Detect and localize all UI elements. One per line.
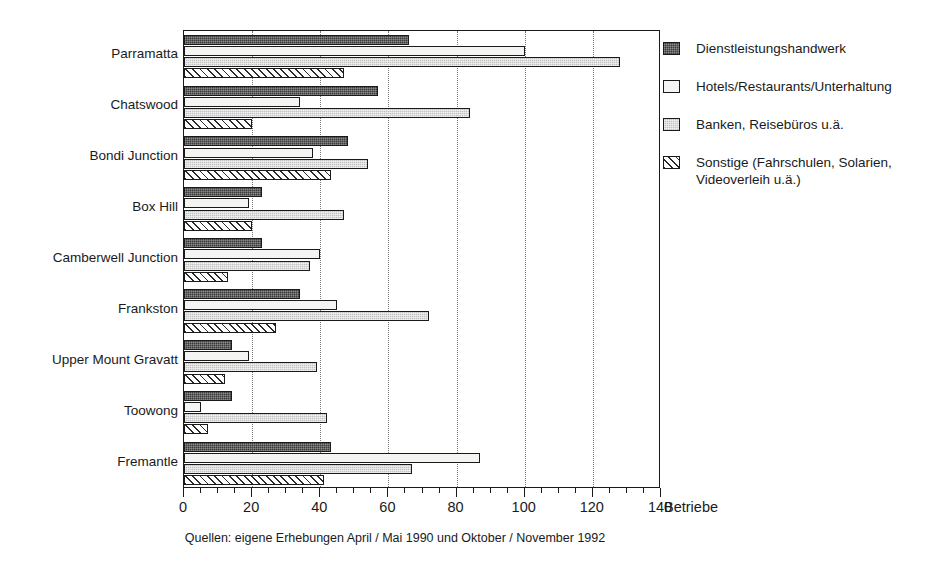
x-axis-minor-tick: [234, 488, 235, 493]
y-axis-label: Camberwell Junction: [53, 250, 178, 265]
chart-figure: ParramattaChatswoodBondi JunctionBox Hil…: [0, 0, 940, 573]
x-axis-minor-tick: [285, 488, 286, 493]
x-axis-minor-tick: [609, 488, 610, 493]
legend-item: Hotels/Restaurants/Unterhaltung: [663, 78, 892, 95]
x-axis-minor-tick: [200, 488, 201, 493]
legend-item: Banken, Reisebüros u.ä.: [663, 116, 844, 133]
legend-item: Sonstige (Fahrschulen, Solarien, Videove…: [663, 154, 892, 188]
x-axis-tick-label: 60: [379, 499, 395, 515]
x-axis-major-tick: [456, 488, 457, 497]
x-axis-minor-tick: [336, 488, 337, 493]
x-axis-unit-label: Betriebe: [664, 499, 718, 515]
x-axis-tick-label: 120: [580, 499, 604, 515]
x-axis-tick-label: 80: [447, 499, 463, 515]
x-axis-major-tick: [319, 488, 320, 497]
legend-label: Dienstleistungshandwerk: [696, 40, 846, 57]
legend-swatch-icon: [663, 118, 680, 131]
y-axis-label: Upper Mount Gravatt: [52, 352, 178, 367]
y-axis-label: Fremantle: [117, 454, 178, 469]
x-axis-major-tick: [592, 488, 593, 497]
x-axis-tick-label: 20: [243, 499, 259, 515]
legend-item: Dienstleistungshandwerk: [663, 40, 846, 57]
x-axis-major-tick: [524, 488, 525, 497]
x-axis-minor-tick: [490, 488, 491, 493]
x-axis-minor-tick: [575, 488, 576, 493]
x-axis-minor-tick: [217, 488, 218, 493]
x-axis: 020406080100120140: [183, 488, 660, 489]
y-axis-label: Frankston: [118, 301, 178, 316]
x-axis-minor-tick: [302, 488, 303, 493]
x-axis-minor-tick: [404, 488, 405, 493]
legend-swatch-icon: [663, 156, 680, 169]
legend-label: Banken, Reisebüros u.ä.: [696, 116, 844, 133]
legend-swatch-icon: [663, 80, 680, 93]
x-axis-minor-tick: [473, 488, 474, 493]
x-axis-minor-tick: [439, 488, 440, 493]
x-axis-minor-tick: [370, 488, 371, 493]
y-axis-label: Box Hill: [132, 199, 178, 214]
y-axis-category-labels: ParramattaChatswoodBondi JunctionBox Hil…: [0, 30, 940, 488]
y-axis-label: Toowong: [124, 403, 178, 418]
x-axis-major-tick: [387, 488, 388, 497]
source-caption: Quellen: eigene Erhebungen April / Mai 1…: [0, 531, 790, 545]
legend-label: Hotels/Restaurants/Unterhaltung: [696, 78, 892, 95]
y-axis-label: Bondi Junction: [89, 148, 178, 163]
x-axis-major-tick: [251, 488, 252, 497]
x-axis-minor-tick: [507, 488, 508, 493]
x-axis-minor-tick: [626, 488, 627, 493]
x-axis-minor-tick: [422, 488, 423, 493]
x-axis-major-tick: [183, 488, 184, 497]
x-axis-major-tick: [660, 488, 661, 497]
x-axis-minor-tick: [268, 488, 269, 493]
y-axis-label: Chatswood: [110, 97, 178, 112]
x-axis-minor-tick: [558, 488, 559, 493]
x-axis-minor-tick: [643, 488, 644, 493]
legend-label: Sonstige (Fahrschulen, Solarien, Videove…: [696, 154, 892, 188]
x-axis-minor-tick: [541, 488, 542, 493]
x-axis-minor-tick: [353, 488, 354, 493]
x-axis-tick-label: 0: [179, 499, 187, 515]
legend-swatch-icon: [663, 42, 680, 55]
x-axis-tick-label: 100: [512, 499, 536, 515]
x-axis-tick-label: 40: [311, 499, 327, 515]
y-axis-label: Parramatta: [111, 46, 178, 61]
